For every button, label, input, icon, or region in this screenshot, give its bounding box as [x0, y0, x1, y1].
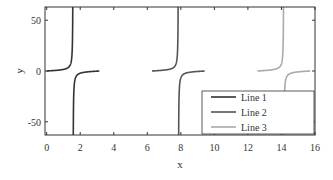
- x-tick-label: 4: [111, 142, 116, 153]
- series-line-2: [178, 71, 204, 140]
- x-tick-label: 12: [243, 142, 253, 153]
- x-tick-label: 8: [178, 142, 183, 153]
- y-axis-label: y: [13, 68, 25, 74]
- series-line-1: [47, 2, 73, 71]
- x-axis-label: x: [177, 158, 183, 170]
- y-tick-label: -50: [28, 117, 41, 128]
- legend-label-line-2: Line 2: [241, 107, 267, 118]
- y-tick-label: 0: [36, 66, 41, 77]
- x-tick-label: 0: [44, 142, 49, 153]
- y-tick-label: 50: [31, 15, 41, 26]
- x-tick-label: 10: [209, 142, 219, 153]
- series-line-2: [152, 2, 178, 71]
- x-tick-label: 14: [276, 142, 286, 153]
- chart: 0246810121416-50050 x y Line 1 Line 2 Li…: [0, 0, 333, 180]
- series-line-1: [73, 71, 99, 140]
- x-tick-label: 2: [78, 142, 83, 153]
- legend-label-line-1: Line 1: [241, 92, 267, 103]
- legend-label-line-3: Line 3: [241, 122, 267, 133]
- x-tick-label: 16: [310, 142, 320, 153]
- legend: Line 1 Line 2 Line 3: [202, 91, 314, 134]
- x-tick-label: 6: [145, 142, 150, 153]
- series-line-3: [257, 2, 283, 71]
